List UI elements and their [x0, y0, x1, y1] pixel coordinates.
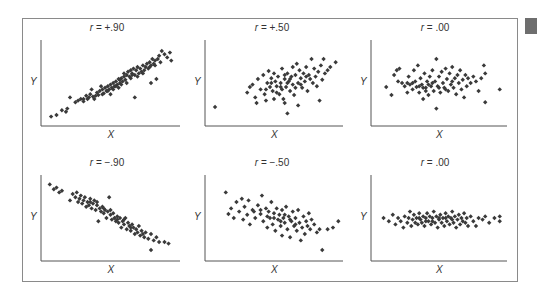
x-axis-label: X	[271, 129, 278, 140]
data-point	[226, 212, 230, 216]
data-point	[432, 89, 436, 93]
data-point	[454, 92, 458, 96]
x-axis-label: X	[436, 129, 443, 140]
data-point	[169, 58, 173, 62]
data-point	[261, 219, 265, 223]
data-point	[168, 50, 172, 54]
data-point	[396, 216, 400, 220]
data-point	[482, 63, 486, 67]
data-point	[480, 217, 484, 221]
data-point	[459, 87, 463, 91]
data-point	[291, 65, 295, 69]
data-point	[125, 227, 129, 231]
data-point	[297, 68, 301, 72]
data-point	[277, 213, 281, 217]
data-point	[304, 219, 308, 223]
data-point	[157, 240, 161, 244]
data-point	[272, 211, 276, 215]
data-point	[89, 206, 93, 210]
data-point	[387, 219, 391, 223]
data-point	[465, 84, 469, 88]
data-point	[437, 74, 441, 78]
panel-title: r = +.90	[90, 22, 124, 33]
data-point	[241, 217, 245, 221]
data-point	[401, 225, 405, 229]
data-point	[465, 216, 469, 220]
data-point	[443, 211, 447, 215]
data-point	[285, 111, 289, 115]
data-point	[455, 217, 459, 221]
data-point	[272, 97, 276, 101]
data-point	[295, 62, 299, 66]
data-point	[317, 227, 321, 231]
data-point	[325, 68, 329, 72]
data-point	[498, 87, 502, 91]
data-point	[447, 71, 451, 75]
data-point	[409, 224, 413, 228]
data-point	[165, 55, 169, 59]
data-point	[299, 76, 303, 80]
data-point	[281, 97, 285, 101]
data-point	[321, 57, 325, 61]
data-point	[466, 76, 470, 80]
data-point	[462, 95, 466, 99]
data-point	[288, 89, 292, 93]
data-point	[396, 79, 400, 83]
data-point	[313, 74, 317, 78]
y-axis-label: Y	[194, 76, 201, 87]
data-point	[283, 221, 287, 225]
data-point	[268, 85, 272, 89]
axes-lines	[371, 40, 507, 126]
data-point	[434, 57, 438, 61]
data-point	[405, 221, 409, 225]
data-point	[311, 81, 315, 85]
data-point	[258, 87, 262, 91]
data-point	[237, 209, 241, 213]
data-point	[325, 227, 329, 231]
data-point	[412, 68, 416, 72]
y-axis-label: Y	[194, 211, 201, 222]
data-point	[119, 225, 123, 229]
scatter-plot-area	[370, 40, 508, 128]
data-point	[295, 229, 299, 233]
data-point	[266, 69, 270, 73]
data-point	[498, 219, 502, 223]
data-point	[264, 98, 268, 102]
data-point	[75, 190, 79, 194]
data-point	[293, 73, 297, 77]
data-point	[158, 60, 162, 64]
data-point	[381, 216, 385, 220]
data-point	[154, 235, 158, 239]
data-point	[422, 71, 426, 75]
data-point	[309, 217, 313, 221]
data-point	[410, 87, 414, 91]
axes-lines	[205, 40, 343, 126]
data-point	[400, 81, 404, 85]
data-point	[315, 230, 319, 234]
data-point	[304, 65, 308, 69]
data-point	[393, 222, 397, 226]
data-point	[328, 65, 332, 69]
data-point	[399, 219, 403, 223]
data-point	[253, 95, 257, 99]
data-point	[288, 235, 292, 239]
data-point	[279, 224, 283, 228]
data-point	[316, 70, 320, 74]
data-point	[154, 77, 158, 81]
data-point	[284, 205, 288, 209]
data-point	[291, 82, 295, 86]
data-point	[60, 108, 64, 112]
data-point	[93, 208, 97, 212]
data-point	[333, 60, 337, 64]
data-point	[262, 92, 266, 96]
data-point	[425, 211, 429, 215]
data-point	[301, 214, 305, 218]
data-point	[421, 97, 425, 101]
data-point	[424, 89, 428, 93]
data-point	[466, 224, 470, 228]
data-point	[54, 113, 58, 117]
scatter-plot-area	[370, 175, 508, 263]
data-point	[270, 89, 274, 93]
data-point	[68, 95, 72, 99]
data-point	[479, 76, 483, 80]
